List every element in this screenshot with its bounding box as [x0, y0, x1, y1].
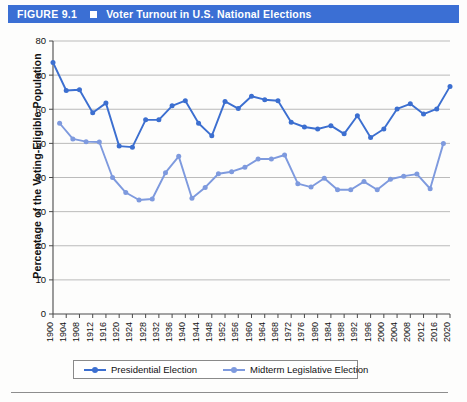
svg-text:1980: 1980	[310, 322, 320, 342]
svg-text:1936: 1936	[164, 322, 174, 342]
svg-text:1900: 1900	[45, 322, 55, 342]
legend-item-midterm[interactable]: Midterm Legislative Election	[223, 364, 368, 375]
svg-text:2016: 2016	[429, 322, 439, 342]
legend-label-presidential: Presidential Election	[111, 364, 197, 375]
svg-text:80: 80	[35, 35, 46, 46]
svg-text:1908: 1908	[71, 322, 81, 342]
svg-text:40: 40	[35, 172, 46, 183]
svg-text:1944: 1944	[191, 322, 201, 342]
svg-text:2012: 2012	[416, 322, 426, 342]
svg-text:1988: 1988	[336, 322, 346, 342]
series-presidential	[51, 60, 453, 150]
svg-text:1984: 1984	[323, 322, 333, 342]
svg-text:20: 20	[35, 240, 46, 251]
legend-swatch-midterm-icon	[223, 365, 245, 375]
svg-text:1976: 1976	[296, 322, 306, 342]
svg-text:1940: 1940	[177, 322, 187, 342]
svg-text:1920: 1920	[111, 322, 121, 342]
svg-text:70: 70	[35, 70, 46, 81]
gridlines	[53, 41, 450, 280]
legend-item-presidential[interactable]: Presidential Election	[84, 364, 197, 375]
chart-plot-area: 01020304050607080 1900190419081912191619…	[0, 0, 467, 402]
svg-text:1948: 1948	[204, 322, 214, 342]
svg-text:10: 10	[35, 274, 46, 285]
svg-text:1932: 1932	[151, 322, 161, 342]
svg-text:1964: 1964	[257, 322, 267, 342]
svg-text:1912: 1912	[85, 322, 95, 342]
svg-text:50: 50	[35, 138, 46, 149]
svg-text:1996: 1996	[363, 322, 373, 342]
legend-swatch-presidential-icon	[84, 365, 106, 375]
svg-text:60: 60	[35, 104, 46, 115]
figure-container: FIGURE 9.1 Voter Turnout in U.S. Nationa…	[0, 0, 467, 402]
svg-text:1952: 1952	[217, 322, 227, 342]
chart-legend: Presidential Election Midterm Legislativ…	[73, 360, 358, 379]
svg-text:1904: 1904	[58, 322, 68, 342]
svg-text:2020: 2020	[442, 322, 452, 342]
y-axis-ticks: 01020304050607080	[35, 35, 53, 319]
svg-text:1916: 1916	[98, 322, 108, 342]
data-series	[51, 60, 453, 203]
svg-text:1992: 1992	[349, 322, 359, 342]
svg-text:2004: 2004	[389, 322, 399, 342]
svg-text:1968: 1968	[270, 322, 280, 342]
legend-label-midterm: Midterm Legislative Election	[250, 364, 368, 375]
svg-text:2000: 2000	[376, 322, 386, 342]
svg-text:1972: 1972	[283, 322, 293, 342]
svg-text:1924: 1924	[124, 322, 134, 342]
svg-text:2008: 2008	[402, 322, 412, 342]
bottom-rule	[11, 392, 448, 393]
svg-text:1928: 1928	[138, 322, 148, 342]
svg-text:0: 0	[41, 308, 46, 319]
svg-text:1960: 1960	[244, 322, 254, 342]
line-chart-svg: 01020304050607080 1900190419081912191619…	[0, 0, 467, 402]
svg-text:30: 30	[35, 206, 46, 217]
x-axis-ticks: 1900190419081912191619201924192819321936…	[45, 314, 452, 342]
svg-text:1956: 1956	[230, 322, 240, 342]
